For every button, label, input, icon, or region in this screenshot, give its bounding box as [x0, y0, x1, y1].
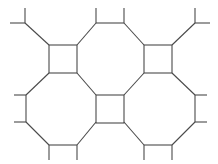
tiling-figure — [0, 0, 218, 164]
canvas-background — [0, 0, 218, 164]
tiling-canvas — [0, 0, 218, 164]
